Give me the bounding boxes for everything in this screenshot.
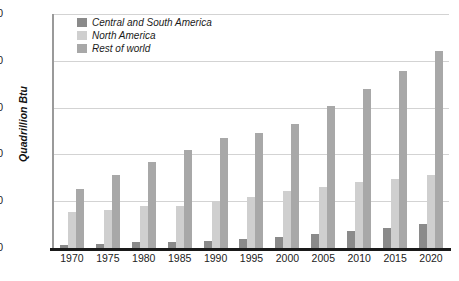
bar bbox=[132, 242, 140, 248]
bar bbox=[347, 231, 355, 248]
chart-figure: Quadrillion Btu 0100200300400500 1970197… bbox=[0, 0, 459, 281]
bar bbox=[247, 197, 255, 248]
bar bbox=[319, 187, 327, 248]
bar bbox=[363, 89, 371, 248]
y-axis-tick-label: 500 bbox=[0, 8, 3, 19]
bar bbox=[419, 224, 427, 248]
bar bbox=[104, 210, 112, 248]
y-axis-tick-label: 300 bbox=[0, 102, 3, 113]
y-axis-tick-label: 200 bbox=[0, 148, 3, 159]
y-axis-tick-label: 0 bbox=[0, 242, 3, 253]
x-axis-tick-label: 2000 bbox=[269, 252, 305, 266]
y-axis-tick-label: 100 bbox=[0, 195, 3, 206]
bar-group bbox=[383, 14, 407, 248]
bar bbox=[291, 124, 299, 248]
bar bbox=[60, 245, 68, 248]
bar bbox=[255, 133, 263, 248]
bar bbox=[275, 237, 283, 248]
bar bbox=[435, 51, 443, 248]
bar bbox=[148, 162, 156, 248]
bar bbox=[311, 234, 319, 248]
legend-swatch-icon bbox=[77, 44, 87, 53]
bar bbox=[176, 206, 184, 248]
x-axis-tick-label: 2010 bbox=[341, 252, 377, 266]
bar-group bbox=[347, 14, 371, 248]
legend-label: Rest of world bbox=[92, 43, 150, 54]
bar bbox=[112, 175, 120, 248]
legend-item[interactable]: Central and South America bbox=[77, 17, 212, 28]
x-axis-tick-label: 1980 bbox=[126, 252, 162, 266]
bar-group bbox=[419, 14, 443, 248]
x-axis-tick-label: 2020 bbox=[413, 252, 449, 266]
bar bbox=[239, 239, 247, 248]
bar bbox=[96, 244, 104, 248]
bar bbox=[283, 191, 291, 248]
chart-legend: Central and South AmericaNorth AmericaRe… bbox=[77, 17, 212, 54]
bar bbox=[399, 71, 407, 248]
bar bbox=[68, 212, 76, 248]
legend-label: North America bbox=[92, 30, 156, 41]
bar bbox=[212, 201, 220, 248]
legend-item[interactable]: North America bbox=[77, 30, 212, 41]
x-axis-tick-labels: 1970197519801985199019952000200520102015… bbox=[54, 252, 449, 266]
bar bbox=[140, 206, 148, 248]
legend-swatch-icon bbox=[77, 31, 87, 40]
bar bbox=[184, 150, 192, 248]
legend-label: Central and South America bbox=[92, 17, 212, 28]
x-axis-tick-label: 1995 bbox=[234, 252, 270, 266]
x-axis-tick-label: 2005 bbox=[305, 252, 341, 266]
x-axis-tick-label: 1970 bbox=[54, 252, 90, 266]
bar bbox=[327, 106, 335, 248]
bar-group bbox=[275, 14, 299, 248]
x-axis-tick-label: 1990 bbox=[198, 252, 234, 266]
bar bbox=[391, 179, 399, 248]
bar bbox=[355, 182, 363, 248]
legend-item[interactable]: Rest of world bbox=[77, 43, 212, 54]
y-axis-tick-label: 400 bbox=[0, 55, 3, 66]
bar bbox=[383, 228, 391, 248]
bar bbox=[220, 138, 228, 248]
bar-group bbox=[311, 14, 335, 248]
bar bbox=[76, 189, 84, 248]
bar bbox=[204, 241, 212, 248]
legend-swatch-icon bbox=[77, 18, 87, 27]
bar-group bbox=[239, 14, 263, 248]
x-axis-tick-label: 2015 bbox=[377, 252, 413, 266]
bar bbox=[427, 175, 435, 248]
bar bbox=[168, 242, 176, 248]
x-axis-baseline bbox=[50, 248, 451, 251]
x-axis-tick-label: 1985 bbox=[162, 252, 198, 266]
x-axis-tick-label: 1975 bbox=[90, 252, 126, 266]
